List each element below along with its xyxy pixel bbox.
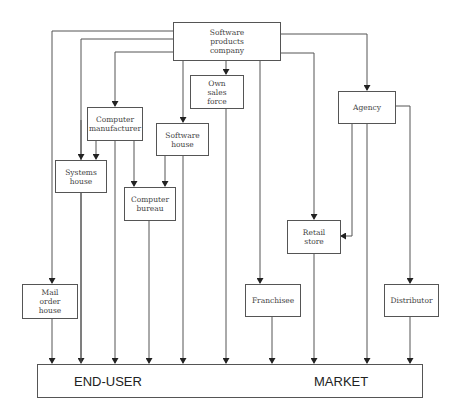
node-computer-bureau: Computer bureau bbox=[124, 187, 176, 221]
node-distributor: Distributor bbox=[384, 284, 439, 317]
node-software-house: Software house bbox=[156, 123, 209, 156]
node-own-sales-force: Own sales force bbox=[190, 75, 244, 109]
market-right-label: MARKET bbox=[314, 374, 368, 389]
node-franchisee: Franchisee bbox=[245, 284, 301, 317]
node-retail-store: Retail store bbox=[287, 220, 341, 254]
node-agency: Agency bbox=[338, 91, 396, 124]
node-software-products-company: Software products company bbox=[173, 22, 281, 61]
node-systems-house: Systems house bbox=[55, 160, 107, 193]
node-computer-manufacturer: Computer manufacturer bbox=[87, 107, 143, 141]
end-user-market-box: END-USER MARKET bbox=[37, 364, 423, 398]
market-left-label: END-USER bbox=[74, 374, 142, 389]
connector-lines bbox=[0, 0, 461, 417]
node-mail-order-house: Mail order house bbox=[22, 284, 78, 319]
